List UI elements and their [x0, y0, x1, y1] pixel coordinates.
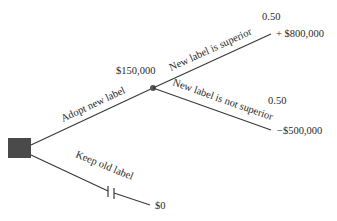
- outcome-superior-probability: 0.50: [262, 11, 280, 22]
- branch-keep-payoff: $0: [155, 200, 166, 211]
- outcome-not-superior-probability: 0.50: [268, 95, 286, 106]
- branch-keep-line-b: [114, 193, 150, 205]
- outcome-superior-payoff: + $800,000: [276, 28, 324, 39]
- outcome-not-superior-payoff: −$500,000: [277, 125, 322, 136]
- branch-adopt-label: Adopt new label: [59, 84, 127, 123]
- branch-keep-label: Keep old label: [74, 149, 135, 182]
- branch-adopt-line: [31, 88, 153, 145]
- outcome-not-superior-label: New label is not superior: [171, 77, 275, 123]
- outcome-superior-label: New label is superior: [167, 25, 253, 72]
- expected-value-label: $150,000: [116, 65, 155, 76]
- decision-tree: Adopt new label $150,000 New label is su…: [0, 0, 337, 221]
- decision-square-icon: [8, 138, 31, 158]
- double-bar-icon: [108, 186, 114, 199]
